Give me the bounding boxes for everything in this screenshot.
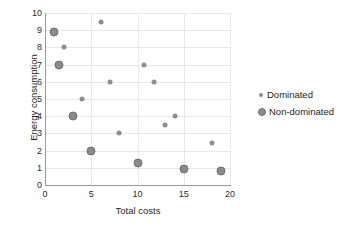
legend-label-dominated: Dominated bbox=[267, 89, 313, 100]
gridline-vertical bbox=[184, 13, 185, 185]
data-point-non-dominated bbox=[54, 60, 63, 69]
x-axis-tick-labels: 05101520 bbox=[45, 190, 231, 202]
x-tick-label: 5 bbox=[81, 190, 101, 199]
x-tick-label: 15 bbox=[174, 190, 194, 199]
data-point-dominated bbox=[152, 79, 157, 84]
x-tick-label: 10 bbox=[128, 190, 148, 199]
legend-marker-dominated-icon bbox=[259, 93, 263, 97]
data-point-dominated bbox=[80, 97, 85, 102]
plot-area bbox=[45, 13, 230, 185]
x-tick-label: 20 bbox=[220, 190, 240, 199]
data-point-non-dominated bbox=[216, 167, 225, 176]
chart-legend: Dominated Non-dominated bbox=[258, 86, 358, 120]
x-axis-title: Total costs bbox=[45, 205, 231, 216]
data-point-dominated bbox=[163, 122, 168, 127]
x-tick-label: 0 bbox=[35, 190, 55, 199]
legend-item-non-dominated[interactable]: Non-dominated bbox=[258, 103, 358, 120]
legend-marker-non-dominated-icon bbox=[258, 108, 266, 116]
data-point-non-dominated bbox=[133, 158, 142, 167]
legend-item-dominated[interactable]: Dominated bbox=[258, 86, 358, 103]
data-point-non-dominated bbox=[68, 112, 77, 121]
data-point-dominated bbox=[107, 79, 112, 84]
data-point-non-dominated bbox=[50, 27, 59, 36]
y-tick-label: 10 bbox=[28, 9, 42, 18]
legend-label-non-dominated: Non-dominated bbox=[269, 106, 334, 117]
data-point-dominated bbox=[98, 19, 103, 24]
y-axis-title: Energy consumption bbox=[28, 18, 39, 178]
data-point-non-dominated bbox=[87, 146, 96, 155]
y-axis-line bbox=[45, 13, 46, 185]
y-tick-label: 0 bbox=[28, 181, 42, 190]
data-point-dominated bbox=[172, 114, 177, 119]
data-point-dominated bbox=[209, 140, 214, 145]
data-point-dominated bbox=[141, 62, 146, 67]
data-point-non-dominated bbox=[179, 164, 188, 173]
x-axis-line bbox=[45, 185, 231, 186]
data-point-dominated bbox=[117, 131, 122, 136]
data-point-dominated bbox=[61, 45, 66, 50]
gridline-vertical bbox=[91, 13, 92, 185]
scatter-chart-figure: 012345678910 05101520 Total costs Energy… bbox=[0, 0, 359, 230]
gridline-vertical bbox=[230, 13, 231, 185]
